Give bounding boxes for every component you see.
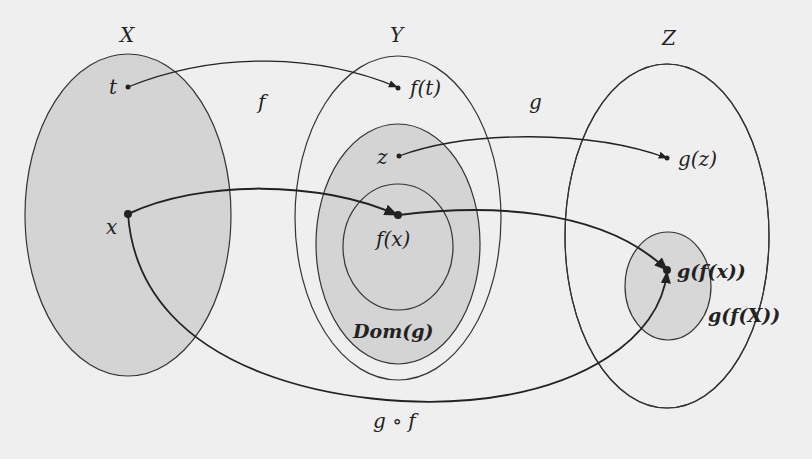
label-z: z <box>376 145 388 169</box>
point-z <box>397 154 402 159</box>
point-t <box>126 85 131 90</box>
label-x: x <box>106 215 117 239</box>
label-t: t <box>109 75 118 99</box>
label-gof: g ∘ f <box>373 409 419 433</box>
label-gz: g(z) <box>678 147 717 171</box>
label-f: f <box>256 90 269 114</box>
label-Y: Y <box>390 23 405 47</box>
composition-diagram: X Y Z t x f f(t) g z g(z) f(x) Dom(g) g(… <box>0 0 812 459</box>
label-g: g <box>529 90 542 114</box>
point-gz <box>665 156 670 161</box>
label-Z: Z <box>661 26 677 50</box>
label-X: X <box>118 23 135 47</box>
label-dom-g: Dom(g) <box>352 320 434 342</box>
label-ft: f(t) <box>408 76 441 100</box>
label-fx: f(x) <box>374 227 410 251</box>
label-gfx: g(f(x)) <box>677 260 746 282</box>
point-ft <box>396 86 401 91</box>
point-gfx <box>663 266 671 274</box>
point-x <box>124 210 132 218</box>
label-g-f-X: g(f(X)) <box>708 304 780 326</box>
point-fx <box>394 211 402 219</box>
